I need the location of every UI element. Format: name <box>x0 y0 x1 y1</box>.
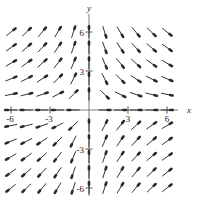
field-arrow-head <box>170 65 172 66</box>
field-arrow-head <box>6 142 8 143</box>
y-tick-label: 3 <box>80 67 85 77</box>
field-arrow-head <box>37 127 39 128</box>
field-arrow-head <box>29 28 31 30</box>
field-arrow <box>117 121 124 130</box>
field-arrow-head <box>122 183 123 185</box>
field-arrow <box>38 153 47 161</box>
field-arrow-head <box>60 43 61 45</box>
y-tick-label: 6 <box>80 28 85 38</box>
field-arrow-head <box>106 51 107 53</box>
field-arrow-head <box>55 191 56 193</box>
field-arrow-head <box>6 174 8 176</box>
field-arrow <box>117 152 123 162</box>
field-arrow <box>72 42 76 53</box>
field-arrow <box>39 184 46 193</box>
field-arrow-head <box>45 76 47 77</box>
field-arrow <box>53 92 63 97</box>
field-arrow-head <box>39 190 41 192</box>
field-arrow-head <box>22 190 24 192</box>
field-arrow <box>38 168 46 176</box>
field-arrow <box>131 76 141 82</box>
field-arrow <box>71 136 76 146</box>
field-arrow-head <box>44 28 46 30</box>
field-arrow <box>55 183 61 193</box>
field-arrow-head <box>14 44 16 46</box>
field-arrow <box>146 93 157 96</box>
field-arrow <box>37 76 47 82</box>
field-arrow-head <box>154 168 156 170</box>
field-arrow-head <box>45 59 47 61</box>
field-arrow <box>21 93 32 96</box>
field-arrow-head <box>138 168 140 170</box>
field-arrow-head <box>38 175 40 177</box>
field-arrow <box>21 139 31 144</box>
field-arrow-head <box>72 175 73 177</box>
field-arrow-head <box>170 49 172 51</box>
field-arrow <box>38 43 46 51</box>
field-arrow <box>132 43 140 51</box>
field-arrow <box>130 93 141 97</box>
field-arrow <box>132 168 139 177</box>
field-arrow-head <box>29 76 31 77</box>
field-arrow-head <box>170 138 172 140</box>
field-arrow-head <box>154 153 156 155</box>
field-arrow <box>6 169 15 176</box>
field-arrow-head <box>75 74 76 76</box>
field-arrow-head <box>54 159 56 161</box>
field-arrow-head <box>122 81 124 83</box>
direction-field-plot: -6-336-6-336 x y <box>0 0 202 206</box>
field-arrow <box>102 136 106 147</box>
field-arrow <box>6 139 17 143</box>
field-arrow <box>163 184 172 191</box>
field-arrow <box>71 58 75 69</box>
field-arrow <box>7 28 16 35</box>
field-arrow <box>102 120 107 130</box>
field-arrow-head <box>14 77 16 78</box>
field-arrow-head <box>60 59 62 61</box>
field-arrow-head <box>71 160 72 162</box>
field-arrow <box>54 152 61 161</box>
field-arrow <box>103 151 107 162</box>
field-arrow-head <box>122 50 123 52</box>
field-arrow-head <box>138 81 140 82</box>
field-arrow-head <box>106 66 107 68</box>
field-arrow <box>103 27 106 38</box>
field-arrow <box>132 122 141 130</box>
field-arrow-head <box>169 184 171 186</box>
field-arrow <box>162 77 173 81</box>
field-arrow <box>6 77 17 81</box>
field-arrow-head <box>71 144 72 146</box>
field-arrow <box>132 153 140 161</box>
field-arrow <box>22 60 31 67</box>
field-arrow-head <box>29 60 31 62</box>
field-arrow-head <box>122 35 123 37</box>
field-arrow <box>22 184 30 192</box>
field-arrow-head <box>169 34 171 36</box>
field-arrow-head <box>7 190 9 192</box>
field-arrow <box>147 44 156 51</box>
field-arrow-head <box>21 143 23 144</box>
field-arrow <box>163 28 172 35</box>
field-arrow <box>161 93 172 95</box>
field-arrow-head <box>5 126 8 127</box>
field-arrow <box>162 44 171 51</box>
field-arrow-head <box>106 151 107 153</box>
field-arrow <box>71 74 76 84</box>
field-arrow <box>54 75 62 83</box>
field-arrow <box>37 138 47 144</box>
y-tick-label: -6 <box>77 184 85 194</box>
field-arrow-head <box>122 152 123 154</box>
field-arrow-head <box>59 27 60 29</box>
field-arrow <box>72 27 75 38</box>
field-arrow <box>117 27 123 37</box>
field-arrow <box>163 169 172 176</box>
field-arrow <box>147 28 155 36</box>
field-arrow-head <box>69 128 71 130</box>
field-arrow <box>162 138 171 145</box>
field-arrow-head <box>106 167 107 169</box>
direction-field-svg: -6-336-6-336 x y <box>0 0 202 206</box>
field-arrow-head <box>60 75 62 77</box>
axes-group <box>6 14 178 196</box>
field-arrow <box>116 75 124 83</box>
field-arrow <box>53 123 63 128</box>
